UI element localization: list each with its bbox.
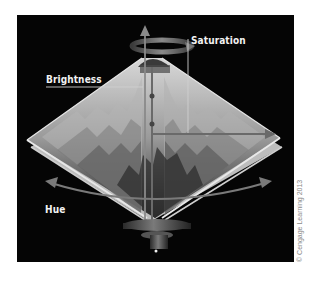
copyright-notice: © Cengage Learning 2013: [296, 180, 303, 262]
cone-base-stand: [123, 219, 191, 253]
diagram-panel: Saturation Brightness Hue: [17, 15, 294, 262]
saturation-ring-arrow-icon: [132, 40, 195, 52]
saturation-label: Saturation: [191, 35, 246, 46]
brightness-label: Brightness: [46, 74, 102, 85]
hue-label: Hue: [45, 204, 65, 215]
hsb-cone-illustration: [17, 15, 294, 262]
